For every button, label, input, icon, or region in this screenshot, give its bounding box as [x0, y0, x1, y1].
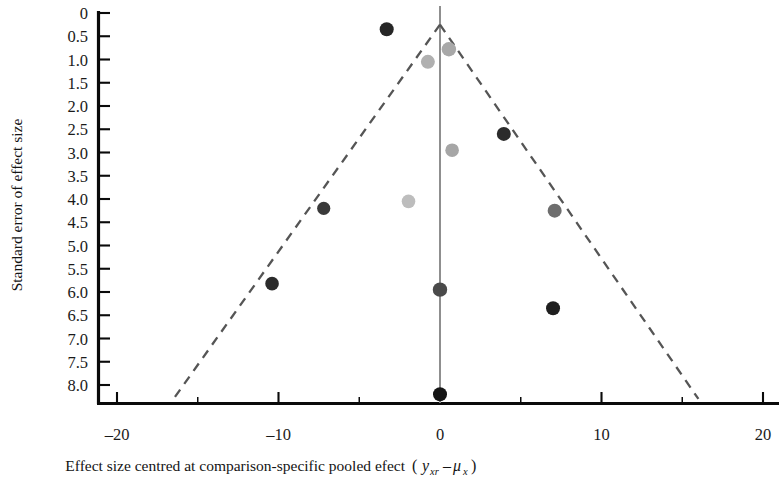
y-axis-ticks — [99, 13, 110, 385]
y-tick-label: 6.0 — [67, 283, 88, 302]
funnel-left-boundary — [174, 25, 440, 399]
y-tick-label: 3.0 — [67, 144, 88, 163]
y-axis-tick-labels: 00.51.01.52.02.53.03.54.04.55.05.56.06.5… — [67, 4, 88, 395]
data-point — [402, 195, 416, 209]
data-point — [265, 277, 279, 291]
x-axis-title-text: Effect size centred at comparison-specif… — [65, 457, 405, 474]
y-tick-label: 7.5 — [67, 353, 88, 372]
scatter-points-group — [265, 22, 561, 401]
data-point — [442, 42, 456, 56]
y-tick-label: 4.0 — [67, 190, 88, 209]
x-tick-label: 10 — [593, 425, 610, 444]
data-point — [380, 22, 394, 36]
x-tick-label: 0 — [436, 425, 444, 444]
data-point — [433, 282, 447, 296]
y-tick-label: 0 — [80, 4, 88, 23]
data-point — [445, 143, 459, 157]
data-point — [497, 127, 511, 141]
math-paren-open: ( — [412, 457, 417, 475]
data-point — [548, 204, 562, 218]
x-axis-title: Effect size centred at comparison-specif… — [65, 457, 476, 477]
y-tick-label: 1.0 — [67, 51, 88, 70]
y-tick-label: 4.5 — [67, 213, 88, 232]
funnel-plot-figure: 00.51.01.52.02.53.03.54.04.55.05.56.06.5… — [0, 0, 779, 484]
y-tick-label: 5.5 — [67, 260, 88, 279]
math-y-symbol: y — [420, 457, 430, 475]
math-y-subscript: xr — [429, 466, 440, 477]
data-point — [421, 55, 435, 69]
data-point — [317, 202, 330, 215]
y-tick-label: 1.5 — [67, 74, 88, 93]
math-paren-close: ) — [471, 457, 476, 475]
y-tick-label: 3.5 — [67, 167, 88, 186]
y-tick-label: 5.0 — [67, 237, 88, 256]
y-tick-label: 0.5 — [67, 27, 88, 46]
x-axis-tick-labels: –20–1001020 — [104, 425, 772, 444]
funnel-boundary-lines — [174, 25, 699, 399]
y-tick-label: 6.5 — [67, 306, 88, 325]
math-mu-symbol: μ — [452, 457, 461, 475]
x-tick-label: –10 — [265, 425, 291, 444]
funnel-right-boundary — [440, 25, 698, 399]
y-tick-label: 7.0 — [67, 330, 88, 349]
x-tick-label: –20 — [104, 425, 130, 444]
funnel-plot-canvas: 00.51.01.52.02.53.03.54.04.55.05.56.06.5… — [0, 0, 779, 484]
x-axis-title-math: (yxr–μx) — [412, 457, 476, 477]
axes-group — [97, 11, 779, 404]
x-tick-label: 20 — [755, 425, 772, 444]
y-tick-label: 2.0 — [67, 97, 88, 116]
math-minus-sign: – — [442, 457, 452, 474]
y-tick-label: 2.5 — [67, 120, 88, 139]
data-point — [546, 301, 560, 315]
math-mu-subscript: x — [462, 466, 468, 477]
y-axis-title: Standard error of effect size — [8, 119, 25, 292]
data-point — [433, 387, 447, 401]
y-tick-label: 8.0 — [67, 376, 88, 395]
